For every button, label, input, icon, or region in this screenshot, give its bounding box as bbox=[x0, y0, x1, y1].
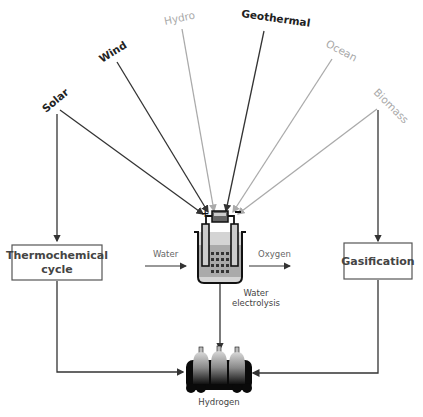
flow-line-thermochemical-hydrogen bbox=[57, 281, 183, 372]
flow-label-oxygen: Oxygen bbox=[258, 249, 291, 259]
process-label-thermochemical-line2: cycle bbox=[41, 263, 72, 276]
flow-line-ocean-electrolysis bbox=[233, 59, 332, 212]
source-label-solar: Solar bbox=[40, 85, 72, 114]
electrolysis-cell-icon: + bbox=[194, 208, 246, 283]
process-label-electrolysis-line2: electrolysis bbox=[232, 298, 281, 308]
process-label-gasification: Gasification bbox=[341, 255, 414, 268]
source-label-hydro: Hydro bbox=[163, 9, 196, 27]
flow-line-geothermal-electrolysis bbox=[226, 31, 264, 211]
flow-line-gasification-hydrogen bbox=[253, 280, 378, 373]
source-label-ocean: Ocean bbox=[324, 37, 359, 63]
flow-label-water: Water bbox=[153, 249, 179, 259]
source-label-geothermal: Geothermal bbox=[241, 7, 311, 29]
product-label-hydrogen: Hydrogen bbox=[198, 397, 239, 407]
flow-line-hydro-electrolysis bbox=[182, 29, 214, 211]
process-label-electrolysis-line1: Water bbox=[243, 288, 269, 298]
hydrogen-cylinders-icon bbox=[186, 346, 252, 393]
source-label-wind: Wind bbox=[97, 39, 129, 65]
flow-line-wind-electrolysis bbox=[117, 62, 208, 212]
process-label-thermochemical-line1: Thermochemical bbox=[6, 249, 108, 262]
flow-line-biomass-electrolysis bbox=[238, 109, 377, 214]
flow-line-solar-electrolysis bbox=[60, 110, 203, 214]
hydrogen-production-diagram: Solar Wind Hydro Geothermal Ocean Biomas… bbox=[0, 0, 423, 417]
